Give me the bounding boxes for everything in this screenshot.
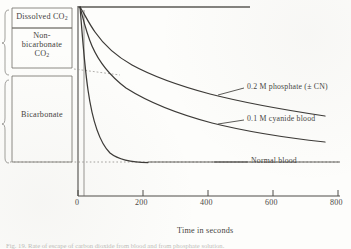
- curve-label-normal-blood: Normal blood: [251, 157, 297, 166]
- xtick-label-600: 600: [265, 199, 278, 208]
- curve-normal-blood: [80, 7, 148, 163]
- curve-phosphate: [80, 7, 325, 116]
- label-non-bicarbonate-co2: Non- bicarbonate CO2: [12, 31, 72, 59]
- subscript-2: 2: [65, 15, 68, 21]
- x-axis-ticks: [78, 190, 338, 196]
- label-bicarbonate: Bicarbonate: [12, 110, 72, 119]
- curve-label-cyanide-blood: 0.1 M cyanide blood: [247, 115, 315, 124]
- curve-label-phosphate: 0.2 M phosphate (± CN): [247, 83, 328, 92]
- leader-phosphate: [218, 88, 244, 95]
- label-non-line1: Non-: [12, 31, 72, 40]
- xtick-label-200: 200: [135, 199, 148, 208]
- non-bicarbonate-helper-line: [74, 69, 120, 75]
- x-axis-title: Time in seconds: [177, 226, 233, 235]
- xtick-label-400: 400: [200, 199, 213, 208]
- label-non-line3: CO2: [12, 49, 72, 59]
- xtick-label-800: 800: [330, 199, 343, 208]
- subscript-2: 2: [46, 53, 49, 59]
- label-dissolved-co2: Dissolved CO2: [12, 12, 72, 22]
- label-non-line2: bicarbonate: [12, 40, 72, 49]
- axes: [78, 6, 340, 196]
- upper-brace: [2, 10, 9, 75]
- figure-caption: Fig. 19. Rate of escape of carbon dioxid…: [6, 242, 224, 249]
- lower-brace: [2, 80, 9, 163]
- xtick-label-0: 0: [75, 199, 79, 208]
- leader-cyanide: [218, 120, 244, 124]
